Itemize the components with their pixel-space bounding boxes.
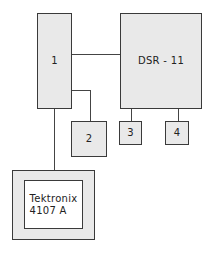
node-4-label: 4: [174, 127, 181, 139]
edge-dsr-to-4: [178, 109, 179, 121]
terminal-screen: Tektronix 4107 A: [24, 180, 83, 229]
edge-dsr-to-3: [131, 109, 132, 121]
node-2: 2: [71, 121, 107, 157]
edge-1-to-2-horizontal: [72, 90, 90, 91]
node-3: 3: [119, 121, 142, 145]
node-dsr-11-label: DSR - 11: [138, 55, 184, 67]
block-diagram: 1 DSR - 11 2 3 4 Tektronix 4107 A: [0, 0, 213, 254]
node-1-label: 1: [51, 55, 58, 67]
node-4: 4: [165, 121, 189, 145]
node-1: 1: [37, 13, 72, 109]
node-3-label: 3: [127, 127, 134, 139]
node-terminal-monitor: Tektronix 4107 A: [12, 170, 95, 240]
edge-1-to-dsr: [72, 54, 120, 55]
edge-1-to-terminal: [54, 109, 55, 170]
terminal-label: Tektronix 4107 A: [29, 193, 77, 217]
node-dsr-11: DSR - 11: [120, 13, 202, 109]
edge-1-to-2-vertical: [90, 90, 91, 121]
node-2-label: 2: [86, 133, 93, 145]
